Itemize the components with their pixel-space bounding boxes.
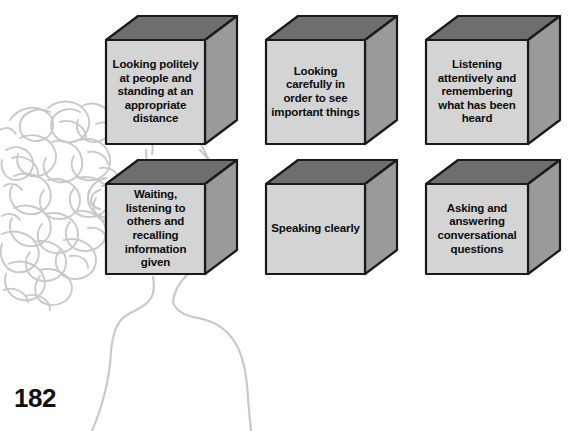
cube-label: Waiting, listening to others and recalli… (107, 185, 204, 273)
cube-speaking-clearly: Speaking clearly (264, 158, 399, 280)
page-number: 182 (14, 385, 56, 411)
cube-looking-politely: Looking politely at people and standing … (104, 14, 239, 150)
cube-label: Looking carefully in order to see import… (267, 41, 364, 143)
cube-asking-answering: Asking and answering conversational ques… (424, 158, 562, 280)
cube-looking-carefully: Looking carefully in order to see import… (264, 14, 399, 150)
textbook-page: 182 Looking politely at people and stand… (0, 0, 573, 431)
cube-label: Listening attentively and remembering wh… (427, 41, 527, 143)
cube-label: Looking politely at people and standing … (107, 41, 204, 143)
cube-label: Asking and answering conversational ques… (427, 185, 527, 273)
cube-waiting-listening: Waiting, listening to others and recalli… (104, 158, 239, 280)
cube-label: Speaking clearly (267, 185, 364, 273)
cube-listening-attentively: Listening attentively and remembering wh… (424, 14, 562, 150)
